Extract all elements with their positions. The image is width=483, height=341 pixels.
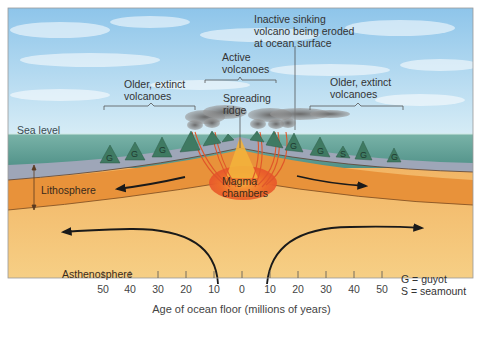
guyot-marker: G bbox=[131, 148, 138, 160]
axis-tick-label: 10 bbox=[208, 283, 220, 295]
axis-tick-label: 20 bbox=[292, 283, 304, 295]
axis-tick-label: 40 bbox=[124, 283, 136, 295]
active-volcanoes-label: Active volcanoes bbox=[222, 51, 269, 75]
guyot-marker: G bbox=[159, 144, 166, 156]
guyot-marker: G bbox=[391, 151, 398, 163]
seamount-marker: S bbox=[340, 148, 346, 160]
older-volcanoes-left-label: Older, extinct volcanoes bbox=[124, 78, 185, 102]
axis-tick-label: 0 bbox=[239, 283, 245, 295]
seafloor-diagram: G G G G G S G G Inactive sinking volcano… bbox=[0, 0, 483, 341]
guyot-marker: G bbox=[360, 149, 367, 161]
asthenosphere-label: Asthenosphere bbox=[62, 268, 133, 280]
axis-tick-label: 40 bbox=[348, 283, 360, 295]
axis-tick-label: 50 bbox=[376, 283, 388, 295]
inactive-volcano-label: Inactive sinking volcano being eroded at… bbox=[254, 13, 354, 49]
lithosphere-label: Lithosphere bbox=[41, 184, 96, 196]
axis-tick-label: 10 bbox=[264, 283, 276, 295]
magma-chambers-label: Magma chambers bbox=[222, 175, 268, 199]
axis-tick-label: 20 bbox=[180, 283, 192, 295]
sea-level-label: Sea level bbox=[17, 124, 60, 136]
guyot-marker: G bbox=[290, 140, 297, 152]
axis-tick-label: 50 bbox=[97, 283, 109, 295]
spreading-ridge-label: Spreading ridge bbox=[223, 92, 271, 116]
older-volcanoes-right-label: Older, extinct volcanoes bbox=[330, 76, 391, 100]
legend-guyot: G = guyot bbox=[401, 273, 466, 285]
axis-title: Age of ocean floor (millions of years) bbox=[0, 303, 483, 315]
legend: G = guyot S = seamount bbox=[401, 273, 466, 297]
axis-tick-label: 30 bbox=[152, 283, 164, 295]
legend-seamount: S = seamount bbox=[401, 285, 466, 297]
guyot-marker: G bbox=[317, 145, 324, 157]
axis-tick-label: 30 bbox=[320, 283, 332, 295]
guyot-marker: G bbox=[106, 152, 113, 164]
